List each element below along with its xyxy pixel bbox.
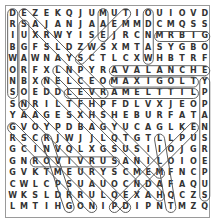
grid-letter[interactable]: C: [120, 54, 131, 65]
grid-letter[interactable]: A: [109, 65, 120, 76]
grid-letter[interactable]: E: [52, 76, 63, 87]
grid-letter[interactable]: M: [120, 42, 131, 53]
grid-letter[interactable]: J: [86, 133, 97, 144]
grid-letter[interactable]: I: [143, 76, 154, 87]
grid-letter[interactable]: R: [75, 190, 86, 201]
grid-letter[interactable]: D: [143, 179, 154, 190]
grid-letter[interactable]: E: [188, 122, 199, 133]
grid-letter[interactable]: L: [165, 133, 176, 144]
grid-letter[interactable]: S: [18, 133, 29, 144]
grid-letter[interactable]: C: [188, 167, 199, 178]
grid-letter[interactable]: G: [7, 122, 18, 133]
grid-letter[interactable]: W: [86, 42, 97, 53]
grid-letter[interactable]: U: [86, 190, 97, 201]
grid-letter[interactable]: R: [97, 65, 108, 76]
grid-letter[interactable]: C: [7, 179, 18, 190]
grid-letter[interactable]: I: [75, 31, 86, 42]
grid-letter[interactable]: W: [63, 133, 74, 144]
grid-letter[interactable]: O: [97, 76, 108, 87]
grid-letter[interactable]: A: [18, 54, 29, 65]
grid-letter[interactable]: S: [154, 42, 165, 53]
grid-letter[interactable]: I: [176, 88, 187, 99]
grid-letter[interactable]: G: [41, 111, 52, 122]
grid-letter[interactable]: A: [154, 179, 165, 190]
grid-letter[interactable]: H: [109, 111, 120, 122]
grid-letter[interactable]: W: [143, 54, 154, 65]
grid-letter[interactable]: Y: [7, 111, 18, 122]
grid-letter[interactable]: J: [41, 19, 52, 30]
grid-letter[interactable]: C: [176, 190, 187, 201]
grid-letter[interactable]: J: [75, 19, 86, 30]
grid-letter[interactable]: R: [120, 31, 131, 42]
grid-letter[interactable]: Q: [165, 190, 176, 201]
grid-letter[interactable]: X: [154, 99, 165, 110]
grid-letter[interactable]: P: [143, 202, 154, 213]
grid-letter[interactable]: U: [75, 179, 86, 190]
grid-letter[interactable]: C: [154, 19, 165, 30]
grid-letter[interactable]: L: [52, 99, 63, 110]
grid-letter[interactable]: X: [30, 76, 41, 87]
grid-letter[interactable]: U: [86, 8, 97, 19]
grid-letter[interactable]: A: [86, 179, 97, 190]
grid-letter[interactable]: O: [165, 145, 176, 156]
grid-letter[interactable]: S: [18, 19, 29, 30]
grid-letter[interactable]: P: [75, 65, 86, 76]
grid-letter[interactable]: R: [86, 156, 97, 167]
grid-letter[interactable]: D: [41, 88, 52, 99]
grid-letter[interactable]: B: [176, 31, 187, 42]
grid-letter[interactable]: L: [97, 133, 108, 144]
grid-letter[interactable]: A: [52, 19, 63, 30]
grid-letter[interactable]: Q: [109, 190, 120, 201]
grid-letter[interactable]: A: [109, 88, 120, 99]
grid-letter[interactable]: S: [131, 145, 142, 156]
grid-letter[interactable]: Q: [188, 179, 199, 190]
grid-letter[interactable]: J: [75, 133, 86, 144]
grid-letter[interactable]: E: [41, 8, 52, 19]
grid-letter[interactable]: R: [165, 31, 176, 42]
grid-letter[interactable]: V: [75, 156, 86, 167]
grid-letter[interactable]: P: [109, 202, 120, 213]
grid-letter[interactable]: L: [176, 76, 187, 87]
grid-letter[interactable]: L: [143, 65, 154, 76]
grid-letter[interactable]: A: [154, 65, 165, 76]
grid-letter[interactable]: T: [120, 8, 131, 19]
grid-letter[interactable]: E: [97, 31, 108, 42]
grid-letter[interactable]: G: [97, 122, 108, 133]
grid-letter[interactable]: K: [176, 122, 187, 133]
grid-letter[interactable]: Y: [199, 76, 210, 87]
grid-letter[interactable]: L: [30, 179, 41, 190]
grid-letter[interactable]: A: [131, 65, 142, 76]
grid-letter[interactable]: A: [30, 19, 41, 30]
grid-letter[interactable]: N: [7, 76, 18, 87]
grid-letter[interactable]: Y: [86, 65, 97, 76]
grid-letter[interactable]: M: [18, 202, 29, 213]
grid-letter[interactable]: A: [86, 122, 97, 133]
grid-letter[interactable]: A: [97, 19, 108, 30]
grid-letter[interactable]: O: [143, 8, 154, 19]
grid-letter[interactable]: M: [176, 202, 187, 213]
grid-letter[interactable]: I: [143, 156, 154, 167]
grid-letter[interactable]: F: [165, 179, 176, 190]
grid-letter[interactable]: P: [199, 88, 210, 99]
grid-letter[interactable]: Z: [75, 42, 86, 53]
grid-letter[interactable]: T: [41, 167, 52, 178]
grid-letter[interactable]: T: [165, 88, 176, 99]
grid-letter[interactable]: T: [188, 111, 199, 122]
grid-letter[interactable]: S: [199, 190, 210, 201]
grid-letter[interactable]: F: [109, 99, 120, 110]
grid-letter[interactable]: V: [188, 8, 199, 19]
grid-letter[interactable]: A: [120, 156, 131, 167]
grid-letter[interactable]: G: [188, 145, 199, 156]
grid-letter[interactable]: S: [109, 167, 120, 178]
grid-letter[interactable]: L: [143, 88, 154, 99]
grid-letter[interactable]: E: [30, 88, 41, 99]
grid-letter[interactable]: N: [165, 65, 176, 76]
grid-letter[interactable]: P: [176, 133, 187, 144]
grid-letter[interactable]: D: [120, 99, 131, 110]
grid-letter[interactable]: N: [86, 202, 97, 213]
grid-letter[interactable]: S: [75, 54, 86, 65]
grid-letter[interactable]: E: [199, 65, 210, 76]
grid-letter[interactable]: S: [86, 31, 97, 42]
grid-letter[interactable]: B: [131, 111, 142, 122]
grid-letter[interactable]: J: [176, 145, 187, 156]
